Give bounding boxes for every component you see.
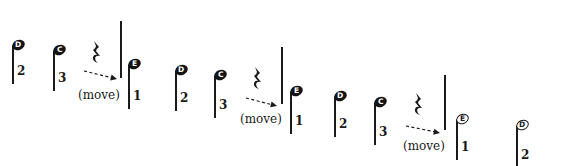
note-stem: [214, 76, 216, 118]
note-stem: [516, 126, 518, 166]
note-d: D2: [12, 40, 36, 86]
dashed-arrow-icon: [244, 93, 281, 111]
note-name: E: [294, 87, 299, 95]
finger-number: 1: [133, 90, 141, 102]
finger-number: 1: [295, 115, 303, 127]
bar-line: [281, 47, 283, 104]
dashed-arrow-icon: [404, 121, 444, 138]
note-name: E: [460, 115, 465, 123]
finger-number: 2: [521, 149, 529, 161]
note-stem: [290, 92, 292, 134]
note-c: C3: [374, 97, 398, 147]
dashed-arrow-icon: [82, 66, 121, 84]
note-d-final: D2: [516, 120, 540, 166]
note-e: E1: [290, 86, 314, 136]
note-stem: [374, 103, 376, 145]
finger-number: 1: [461, 141, 469, 153]
note-name: D: [337, 92, 343, 100]
finger-number: 2: [180, 92, 188, 104]
note-stem: [456, 120, 458, 160]
note-name: D: [15, 41, 21, 49]
note-c: C3: [214, 70, 238, 120]
bar-line: [120, 21, 122, 78]
finger-number: 2: [339, 118, 347, 130]
finger-number: 2: [17, 65, 25, 77]
quarter-rest-icon: [253, 67, 263, 89]
note-name: C: [57, 46, 63, 54]
note-c: C3: [53, 45, 77, 93]
finger-number: 3: [219, 99, 227, 111]
quarter-rest-icon: [414, 93, 424, 115]
note-e: E1: [128, 59, 152, 111]
note-d: D2: [175, 65, 199, 113]
note-name: D: [519, 121, 525, 129]
note-name: C: [378, 98, 384, 106]
note-stem: [175, 71, 177, 111]
move-label: (move): [78, 89, 120, 101]
note-name: D: [178, 66, 184, 74]
note-stem: [334, 97, 336, 137]
note-stem: [12, 46, 14, 84]
note-name: E: [132, 60, 137, 68]
bar-line: [444, 75, 446, 130]
note-e: E1: [456, 114, 480, 162]
move-label: (move): [403, 140, 445, 152]
music-diagram: D2C3(move)E1D2C3(move)E1D2C3(move)E1D2: [0, 0, 567, 166]
quarter-rest-icon: [92, 41, 102, 63]
note-name: C: [218, 71, 224, 79]
finger-number: 3: [379, 126, 387, 138]
finger-number: 3: [58, 72, 66, 84]
note-stem: [53, 51, 55, 91]
note-d: D2: [334, 91, 358, 139]
note-stem: [128, 65, 130, 109]
move-label: (move): [240, 113, 282, 125]
